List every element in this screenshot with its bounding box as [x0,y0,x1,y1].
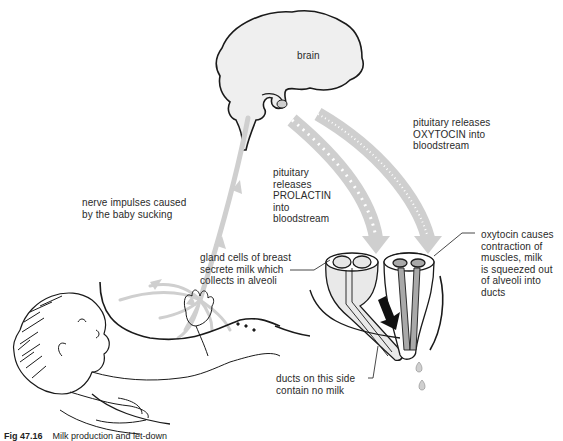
prolactin-release-label: pituitary releases PROLACTIN into bloods… [273,167,331,225]
gland-cells-label: gland cells of breast secrete milk which… [200,252,291,287]
ducts-no-milk-label: ducts on this side contain no milk [276,373,355,396]
oxytocin-effect-label: oxytocin causes contraction of muscles, … [481,229,554,298]
nerve-impulses-label: nerve impulses caused by the baby suckin… [82,197,186,220]
brain-label: brain [297,50,320,62]
figure-number: Fig 47.16 [4,431,43,441]
milk-drop-icons [416,362,425,390]
baby-illustration [13,290,310,434]
oxytocin-release-label: pituitary releases OXYTOCIN into bloodst… [413,117,490,152]
figure-caption-text: Milk production and let-down [53,431,168,441]
figure-caption: Fig 47.16Milk production and let-down [4,431,167,441]
